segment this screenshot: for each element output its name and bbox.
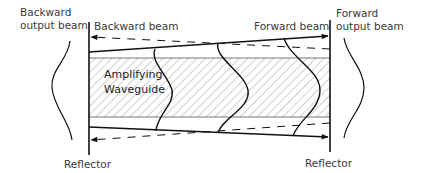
- forward-output-line1: Forward: [336, 7, 404, 20]
- forward-output-line2: output beam: [336, 20, 404, 33]
- forward-beam-label: Forward beam: [254, 20, 329, 33]
- waveguide-line2: Waveguide: [104, 82, 165, 97]
- right-reflector-label: Reflector: [305, 157, 352, 170]
- backward-beam-label: Backward beam: [94, 20, 178, 33]
- forward-beam-top-arrow: [89, 36, 328, 52]
- forward-output-profile: [344, 38, 364, 138]
- left-reflector-label: Reflector: [64, 158, 111, 171]
- backward-output-beam-label: Backward output beam: [20, 6, 88, 32]
- backward-output-profile: [52, 41, 72, 140]
- backward-output-line1: Backward: [20, 6, 88, 19]
- forward-output-beam-label: Forward output beam: [336, 7, 404, 33]
- waveguide-line1: Amplifying: [104, 67, 165, 82]
- backward-output-line2: output beam: [20, 19, 88, 32]
- amplifying-waveguide-label: Amplifying Waveguide: [104, 67, 165, 97]
